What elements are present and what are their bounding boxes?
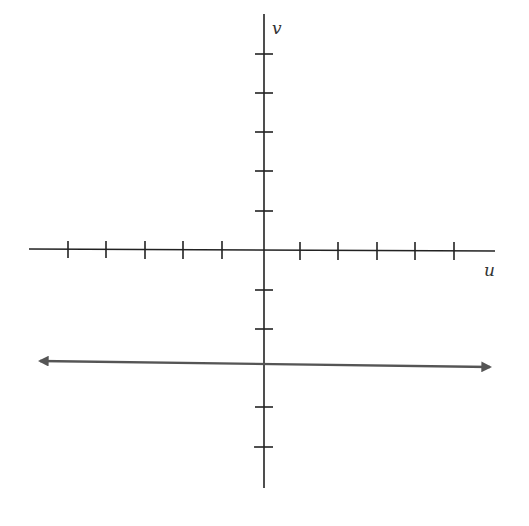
v-axis <box>254 14 273 488</box>
u-axis <box>29 241 495 260</box>
horizontal-line-v-neg3 <box>40 361 490 367</box>
coordinate-plane: v u <box>0 0 529 526</box>
v-axis-label: v <box>272 18 282 38</box>
u-axis-label: u <box>484 260 495 280</box>
